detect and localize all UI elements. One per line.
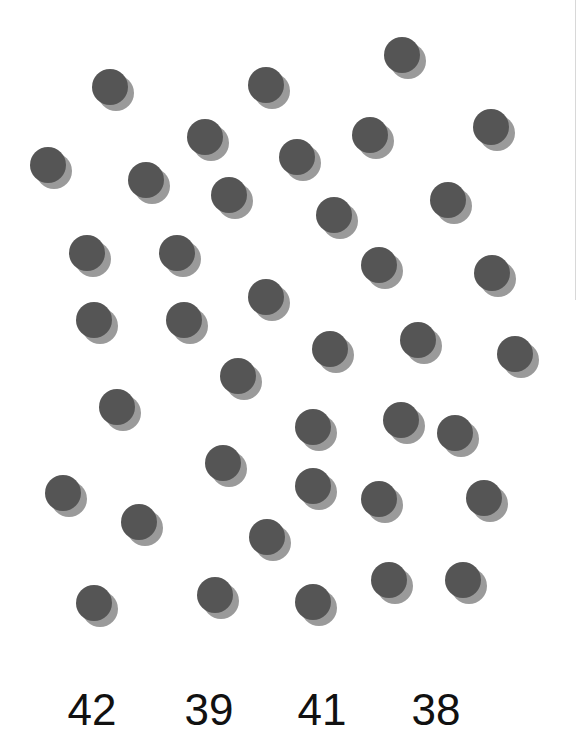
dot-circle <box>166 302 202 338</box>
dot-circle <box>248 279 284 315</box>
dot-circle <box>384 37 420 73</box>
dot-circle <box>430 182 466 218</box>
dot-circle <box>279 139 315 175</box>
dot <box>497 336 533 372</box>
dot-circle <box>121 504 157 540</box>
dot <box>166 302 202 338</box>
dot-circle <box>316 197 352 233</box>
dot-circle <box>45 475 81 511</box>
dot-circle <box>312 331 348 367</box>
dot <box>384 37 420 73</box>
dot-circle <box>295 468 331 504</box>
dot-field <box>0 0 577 660</box>
dot-circle <box>205 445 241 481</box>
edge-divider <box>575 0 576 300</box>
dot-circle <box>383 402 419 438</box>
dot-circle <box>76 585 112 621</box>
dot <box>187 119 223 155</box>
dot-circle <box>128 162 164 198</box>
dot <box>99 389 135 425</box>
dot <box>295 409 331 445</box>
dot <box>400 322 436 358</box>
dot <box>211 177 247 213</box>
dot-circle <box>474 255 510 291</box>
answer-choices: 42 39 41 38 <box>0 685 577 735</box>
dot-circle <box>99 389 135 425</box>
dot-circle <box>211 177 247 213</box>
dot-circle <box>76 302 112 338</box>
dot-circle <box>497 336 533 372</box>
dot <box>361 481 397 517</box>
dot-circle <box>92 69 128 105</box>
dot <box>76 585 112 621</box>
dot <box>220 358 256 394</box>
dot <box>69 235 105 271</box>
dot <box>76 302 112 338</box>
dot <box>316 197 352 233</box>
dot <box>45 475 81 511</box>
dot-circle <box>295 584 331 620</box>
dot <box>30 147 66 183</box>
dot-circle <box>361 247 397 283</box>
dot <box>248 279 284 315</box>
dot <box>437 415 473 451</box>
dot-circle <box>187 119 223 155</box>
dot <box>474 255 510 291</box>
dot <box>248 67 284 103</box>
dot-circle <box>473 109 509 145</box>
dot <box>383 402 419 438</box>
dot-circle <box>466 480 502 516</box>
dot <box>279 139 315 175</box>
dot <box>295 584 331 620</box>
dot <box>371 562 407 598</box>
choice-1[interactable]: 42 <box>68 685 117 735</box>
dot <box>466 480 502 516</box>
dot-circle <box>159 235 195 271</box>
dot <box>205 445 241 481</box>
dot-circle <box>249 519 285 555</box>
dot <box>473 109 509 145</box>
dot <box>352 117 388 153</box>
dot <box>361 247 397 283</box>
choice-2[interactable]: 39 <box>185 685 234 735</box>
dot-circle <box>248 67 284 103</box>
choice-3[interactable]: 41 <box>298 685 347 735</box>
dot <box>430 182 466 218</box>
dot <box>295 468 331 504</box>
dot <box>121 504 157 540</box>
dot-circle <box>30 147 66 183</box>
dot <box>249 519 285 555</box>
dot-circle <box>361 481 397 517</box>
dot <box>445 562 481 598</box>
choice-4[interactable]: 38 <box>412 685 461 735</box>
dot <box>197 577 233 613</box>
dot <box>92 69 128 105</box>
dot-circle <box>295 409 331 445</box>
dot-circle <box>437 415 473 451</box>
dot-circle <box>69 235 105 271</box>
dot-circle <box>445 562 481 598</box>
dot-circle <box>371 562 407 598</box>
dot <box>312 331 348 367</box>
dot-circle <box>220 358 256 394</box>
dot-circle <box>197 577 233 613</box>
dot <box>159 235 195 271</box>
dot-circle <box>352 117 388 153</box>
dot <box>128 162 164 198</box>
dot-circle <box>400 322 436 358</box>
